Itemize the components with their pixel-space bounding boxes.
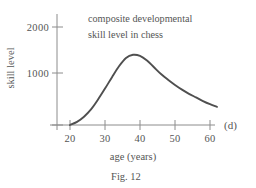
x-axis-title: age (years) <box>110 151 157 163</box>
skill-level-curve <box>70 55 217 125</box>
x-tick-label-20: 20 <box>64 133 75 144</box>
y-tick-label-1000: 1000 <box>27 68 49 79</box>
annotation-line-1: composite developmental <box>88 13 193 24</box>
x-tick-label-30: 30 <box>99 133 110 144</box>
annotation-line-2: skill level in chess <box>88 29 163 40</box>
panel-label: (d) <box>224 119 237 132</box>
chess-skill-vs-age-chart: 2000 1000 20 30 40 50 60 composite devel… <box>0 0 256 188</box>
figure-caption: Fig. 12 <box>111 171 141 182</box>
figure-page: 2000 1000 20 30 40 50 60 composite devel… <box>0 0 256 188</box>
x-tick-label-60: 60 <box>204 133 215 144</box>
x-tick-label-50: 50 <box>169 133 180 144</box>
x-tick-label-40: 40 <box>134 133 145 144</box>
y-tick-label-2000: 2000 <box>27 22 49 33</box>
y-axis-title: skill level <box>5 47 16 88</box>
